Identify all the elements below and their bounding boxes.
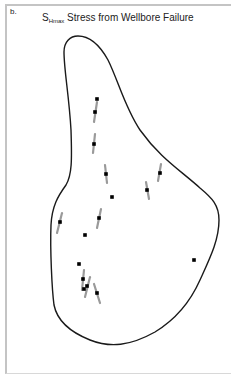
well-marker [82,287,86,291]
well-marker [95,291,99,295]
well-marker [104,172,108,176]
well-markers [58,97,196,295]
well-marker [58,220,62,224]
well-marker [110,195,114,199]
well-marker [81,277,85,281]
well-marker [192,258,196,262]
well-marker [145,188,149,192]
stress-map [0,0,231,378]
well-marker [83,233,87,237]
well-marker [93,110,97,114]
well-marker [77,262,81,266]
well-marker [97,216,101,220]
stress-orientation-bars [57,102,161,303]
field-outline [51,36,219,345]
well-marker [158,171,162,175]
well-marker [92,142,96,146]
well-marker [95,97,99,101]
